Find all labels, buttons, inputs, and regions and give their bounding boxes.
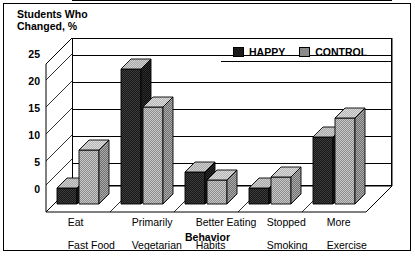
x-cat-2-line1: Primarily — [132, 216, 173, 228]
bar-series-group — [57, 59, 365, 204]
legend-item-happy: HAPPY — [233, 46, 285, 58]
y-tick-0: 0 — [18, 184, 40, 195]
depth-line-20 — [46, 81, 72, 107]
legend-label-control: CONTROL — [315, 46, 367, 58]
legend-separator — [221, 61, 392, 62]
chart-figure: Students WhoChanged, % — [0, 0, 415, 261]
legend-swatch-control — [299, 47, 310, 57]
legend-label-happy: HAPPY — [249, 46, 285, 58]
depth-line-25 — [46, 54, 72, 80]
y-tick-25: 25 — [18, 49, 40, 60]
x-axis-title: Behavior — [0, 231, 415, 243]
bar-control-primarily-vegetarian — [143, 97, 173, 204]
x-cat-4-line1: Stopped — [267, 216, 306, 228]
depth-line-10 — [46, 135, 72, 161]
y-tick-20: 20 — [18, 76, 40, 87]
legend-swatch-happy — [233, 47, 244, 57]
x-cat-1-line1: Eat — [68, 216, 84, 228]
y-tick-15: 15 — [18, 103, 40, 114]
y-tick-10: 10 — [18, 130, 40, 141]
bar-control-better-eating-habits — [207, 170, 237, 204]
x-cat-5-line1: More — [327, 216, 351, 228]
legend-item-control: CONTROL — [299, 46, 367, 58]
left-wall-top-edge — [46, 38, 72, 64]
bar-control-more-exercise — [335, 108, 365, 204]
x-cat-3-line1: Better Eating — [196, 216, 257, 228]
chart-legend: HAPPY CONTROL — [225, 42, 375, 61]
bar-control-eat-fast-food — [79, 140, 109, 204]
y-tick-5: 5 — [18, 157, 40, 168]
depth-line-15 — [46, 108, 72, 134]
bar-control-stopped-smoking — [271, 167, 301, 204]
